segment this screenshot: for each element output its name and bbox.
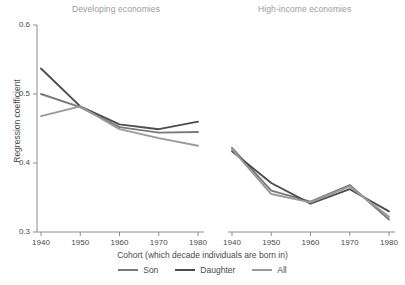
x-tick-label: 1950 xyxy=(254,238,288,247)
panel-title-developing: Developing economies xyxy=(72,4,160,14)
x-tick-label: 1970 xyxy=(142,238,176,247)
y-tick-label: 0.5 xyxy=(0,89,30,98)
panel-title-high-income: High-income economies xyxy=(258,4,351,14)
legend-swatch-icon xyxy=(175,269,195,271)
x-tick-label: 1940 xyxy=(215,238,249,247)
x-tick-label: 1960 xyxy=(103,238,137,247)
y-tick-label: 0.6 xyxy=(0,20,30,29)
y-tick-label: 0.4 xyxy=(0,158,30,167)
legend-swatch-icon xyxy=(252,269,272,271)
legend-label: Daughter xyxy=(200,266,235,275)
legend-label: Son xyxy=(143,266,158,275)
series-line-all xyxy=(232,149,389,217)
y-tick-label: 0.3 xyxy=(0,227,30,236)
legend-item-son[interactable]: Son xyxy=(118,266,158,275)
legend-item-daughter[interactable]: Daughter xyxy=(175,266,235,275)
x-tick-label: 1950 xyxy=(63,238,97,247)
legend-item-all[interactable]: All xyxy=(252,266,286,275)
legend-swatch-icon xyxy=(118,269,138,271)
x-tick-label: 1940 xyxy=(24,238,58,247)
chart-figure: Developing economies High-income economi… xyxy=(0,0,405,285)
series-line-daughter xyxy=(41,68,198,129)
x-tick-label: 1970 xyxy=(333,238,367,247)
x-tick-label: 1960 xyxy=(294,238,328,247)
chart-legend: SonDaughterAll xyxy=(0,266,405,275)
x-tick-label: 1980 xyxy=(181,238,215,247)
x-tick-label: 1980 xyxy=(372,238,405,247)
series-line-son xyxy=(232,148,389,220)
x-axis-label: Cohort (which decade individuals are bor… xyxy=(0,250,405,260)
legend-label: All xyxy=(277,266,286,275)
